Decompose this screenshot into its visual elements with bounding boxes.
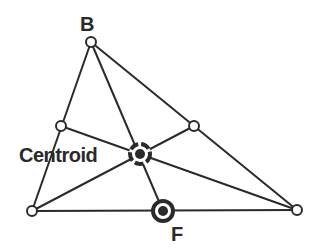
centroid-marker xyxy=(129,143,151,165)
centroid-diagram: B Centroid F xyxy=(0,0,322,251)
midpoint-BC xyxy=(189,121,199,131)
median-from-C xyxy=(61,126,297,210)
vertex-B xyxy=(86,37,96,47)
f-marker xyxy=(152,200,174,222)
midpoint-AB xyxy=(56,121,66,131)
label-B: B xyxy=(80,14,94,34)
vertex-A xyxy=(27,206,37,216)
label-F: F xyxy=(171,224,183,244)
diagram-canvas xyxy=(0,0,322,251)
vertex-C xyxy=(292,205,302,215)
median-from-B xyxy=(91,42,163,211)
label-centroid: Centroid xyxy=(19,145,97,165)
